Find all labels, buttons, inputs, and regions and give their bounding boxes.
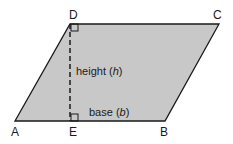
vertex-label-e: E [69,125,77,139]
height-label: height (h) [76,65,123,77]
vertex-label-c: C [213,8,222,22]
vertex-label-a: A [11,125,19,139]
base-label: base (b) [89,106,129,118]
vertex-label-b: B [160,125,168,139]
vertex-label-d: D [69,8,78,22]
parallelogram-diagram: D C A E B height (h) base (b) [0,0,233,144]
